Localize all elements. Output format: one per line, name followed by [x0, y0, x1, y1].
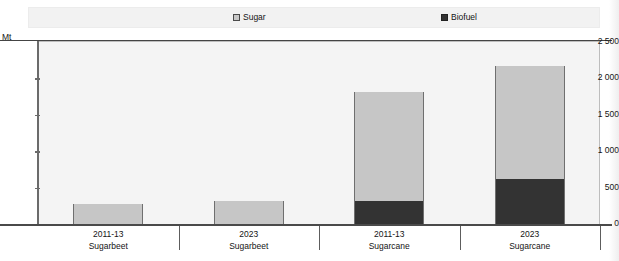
category-label: 2011-13Sugarcane	[329, 228, 449, 252]
category-crop: Sugarcane	[470, 240, 590, 252]
category-period: 2023	[189, 228, 309, 240]
bar-segment-biofuel	[355, 201, 423, 224]
bar-sugarcane-2011-13	[354, 92, 424, 224]
bar-segment-sugar	[355, 92, 423, 200]
legend-item-sugar: Sugar	[233, 11, 266, 23]
category-label: 2011-13Sugarbeet	[48, 228, 168, 252]
legend-label-sugar: Sugar	[243, 11, 266, 23]
y-tick-mark	[35, 78, 40, 80]
category-period: 2023	[470, 228, 590, 240]
category-label: 2023Sugarbeet	[189, 228, 309, 252]
bar-segment-sugar	[215, 201, 283, 224]
bar-sugarcane-2023	[495, 66, 565, 224]
page-edge-shadow	[609, 0, 619, 261]
y-tick-mark	[35, 115, 40, 117]
chart-legend: Sugar Biofuel	[28, 7, 600, 28]
category-period: 2011-13	[329, 228, 449, 240]
y-tick-mark	[35, 188, 40, 190]
y-tick-mark	[35, 151, 40, 153]
axis-top-rule	[0, 40, 612, 41]
legend-swatch-biofuel-icon	[441, 14, 448, 21]
bar-segment-sugar	[496, 66, 564, 178]
bar-segment-biofuel	[496, 179, 564, 225]
category-crop: Sugarbeet	[189, 240, 309, 252]
category-separator	[460, 226, 461, 250]
category-label: 2023Sugarcane	[470, 228, 590, 252]
category-separator	[319, 226, 320, 250]
category-separator	[600, 226, 601, 250]
category-axis: 2011-13Sugarbeet2023Sugarbeet2011-13Suga…	[0, 226, 619, 261]
bar-segment-sugar	[74, 204, 142, 224]
legend-item-biofuel: Biofuel	[441, 11, 477, 23]
legend-label-biofuel: Biofuel	[451, 11, 477, 23]
y-axis-line	[37, 41, 39, 225]
category-period: 2011-13	[48, 228, 168, 240]
bar-sugarbeet-2023	[214, 201, 284, 224]
bar-sugarbeet-2011-13	[73, 204, 143, 224]
category-separator	[179, 226, 180, 250]
category-crop: Sugarbeet	[48, 240, 168, 252]
category-crop: Sugarcane	[329, 240, 449, 252]
legend-swatch-sugar-icon	[233, 14, 240, 21]
